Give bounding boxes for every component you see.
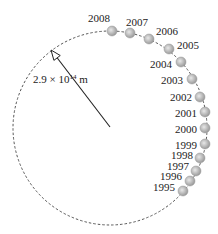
- star-position-2006: [144, 34, 154, 44]
- star-position-2004: [176, 57, 186, 67]
- star-position-2000: [200, 123, 210, 133]
- year-label-2006: 2006: [156, 26, 178, 37]
- star-position-1997: [191, 166, 201, 176]
- star-position-2005: [164, 44, 174, 54]
- year-label-2004: 2004: [150, 59, 172, 70]
- year-label-2002: 2002: [170, 92, 192, 103]
- year-label-2005: 2005: [177, 40, 199, 51]
- star-position-2008: [107, 26, 117, 36]
- star-position-1999: [200, 139, 210, 149]
- year-label-2001: 2001: [175, 108, 197, 119]
- star-position-1998: [195, 153, 205, 163]
- star-position-2001: [200, 107, 210, 117]
- year-label-2008: 2008: [88, 13, 110, 24]
- star-position-2007: [125, 28, 135, 38]
- year-label-1995: 1995: [153, 182, 175, 193]
- radius-label: 2.9 × 1014 m: [33, 74, 88, 85]
- star-position-2002: [195, 92, 205, 102]
- radius-arrow: [55, 55, 110, 127]
- year-label-2007: 2007: [126, 17, 148, 28]
- star-position-1995: [178, 186, 188, 196]
- star-position-2003: [187, 74, 197, 84]
- year-label-2003: 2003: [161, 75, 183, 86]
- year-label-2000: 2000: [175, 124, 197, 135]
- orbit-diagram: 2.9 × 1014 m 200820072006200520042003200…: [0, 0, 218, 234]
- star-position-1996: [185, 176, 195, 186]
- arrowhead-icon: [51, 50, 60, 60]
